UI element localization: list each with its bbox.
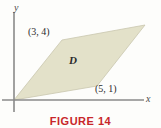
region-label-d: D [69, 55, 77, 66]
vertex-label-lower-right: (5, 1) [95, 84, 117, 94]
figure-caption: FIGURE 14 [0, 116, 161, 127]
coordinate-plot [0, 0, 161, 128]
vertex-label-upper-left: (3, 4) [28, 27, 50, 37]
x-axis-label: x [146, 94, 150, 104]
figure-container: y x (3, 4) (5, 1) D FIGURE 14 [0, 0, 161, 128]
y-axis-label: y [14, 3, 18, 13]
